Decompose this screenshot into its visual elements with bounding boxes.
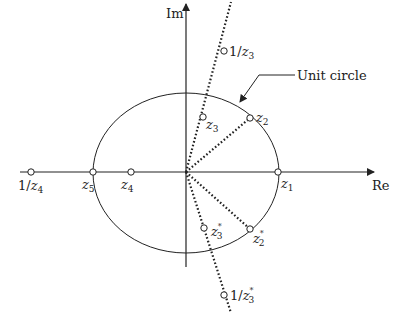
point-z5: [90, 169, 96, 175]
unit-circle-label: Unit circle: [297, 68, 367, 83]
label-inv-z3-conj: 1/z*3: [230, 286, 255, 305]
points: [28, 48, 281, 298]
label-inv-z4: 1/z4: [18, 178, 44, 195]
point-inv-z4: [28, 169, 34, 175]
ray-to-inv-z3: [186, 2, 231, 172]
real-axis-label: Re: [372, 178, 390, 193]
label-z2-conj: z*2: [252, 229, 265, 248]
point-z1: [275, 169, 281, 175]
point-inv-z3: [221, 48, 227, 54]
complex-plane-diagram: Unit circle Im Re z1 z2 z3 z4 z5 1/z3 1/: [0, 0, 401, 327]
label-z4: z4: [120, 177, 134, 194]
ray-to-z2-conj: [186, 172, 250, 229]
label-z1: z1: [280, 176, 294, 193]
label-z5: z5: [81, 177, 95, 194]
label-z3-conj: z*3: [210, 222, 223, 241]
label-z2: z2: [255, 110, 269, 127]
unit-circle-leader: [240, 75, 295, 102]
point-inv-z3-conj: [221, 292, 227, 298]
point-z2: [247, 115, 253, 121]
label-z3: z3: [205, 117, 219, 134]
label-inv-z3: 1/z3: [229, 44, 255, 61]
point-z3-conj: [201, 225, 207, 231]
point-z4: [128, 169, 134, 175]
diagram-canvas: Unit circle Im Re z1 z2 z3 z4 z5 1/z3 1/: [0, 0, 401, 327]
imag-axis-label: Im: [166, 6, 183, 21]
